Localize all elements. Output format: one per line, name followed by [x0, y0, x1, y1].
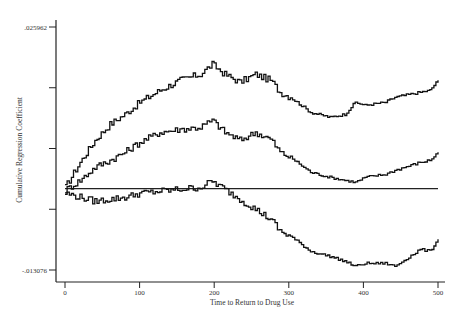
- y-axis-title: Cumulative Regression Coefficient: [15, 96, 24, 203]
- series-estimate: [65, 119, 438, 193]
- x-axis-title: Time to Return to Drug Use: [210, 298, 295, 307]
- x-tick-label: 400: [358, 289, 369, 297]
- x-tick-label: 300: [284, 289, 295, 297]
- x-tick-label: 100: [134, 289, 145, 297]
- series-upper-confidence-band: [65, 62, 438, 185]
- y-tick-label: -.013076: [22, 267, 48, 275]
- x-tick-label: 200: [209, 289, 220, 297]
- chart: .025962-.013076 0100200300400500 Time to…: [0, 0, 466, 328]
- series-lower-confidence-band: [65, 181, 438, 267]
- y-axis: .025962-.013076: [22, 20, 56, 282]
- x-tick-label: 0: [63, 289, 67, 297]
- x-axis: 0100200300400500: [56, 282, 445, 297]
- x-tick-label: 500: [433, 289, 444, 297]
- plot-area: [65, 62, 438, 267]
- y-tick-label: .025962: [24, 24, 47, 32]
